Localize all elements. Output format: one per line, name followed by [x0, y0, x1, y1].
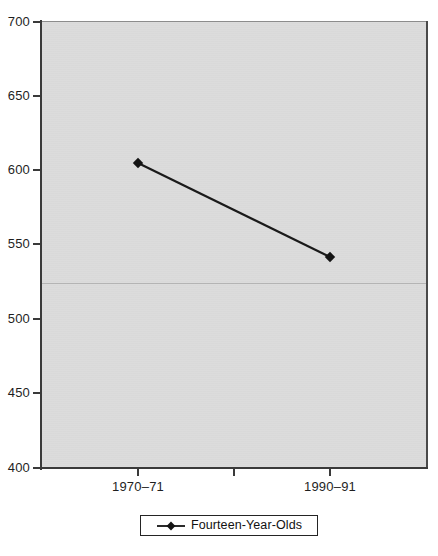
line-chart-figure: 700 650 600 550 500 450 400 1970–71 1990…	[0, 0, 438, 556]
legend-entry-fourteen-year-olds: Fourteen-Year-Olds	[156, 519, 302, 532]
data-point-1970-71	[133, 158, 143, 168]
data-point-1990-91	[325, 252, 335, 262]
legend-label: Fourteen-Year-Olds	[191, 519, 302, 532]
legend-diamond-marker-icon	[156, 520, 186, 532]
legend: Fourteen-Year-Olds	[140, 515, 318, 536]
series-line-fourteen-year-olds	[138, 163, 330, 257]
series-layer	[0, 0, 438, 556]
